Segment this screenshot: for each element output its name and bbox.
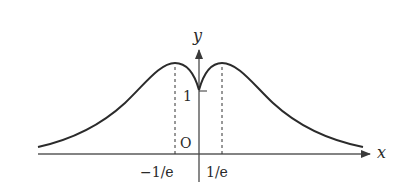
curve-right bbox=[199, 63, 363, 147]
x-tick-neg-label: −1/e bbox=[140, 164, 174, 180]
x-axis-label: x bbox=[377, 143, 386, 162]
y-tick-one-label: 1 bbox=[183, 88, 192, 104]
x-tick-pos-label: 1/e bbox=[206, 164, 228, 180]
origin-label: O bbox=[180, 135, 191, 151]
graph-canvas: y x O 1 −1/e 1/e bbox=[0, 0, 413, 196]
function-graph: y x O 1 −1/e 1/e bbox=[0, 0, 413, 196]
y-axis-label: y bbox=[192, 26, 203, 45]
